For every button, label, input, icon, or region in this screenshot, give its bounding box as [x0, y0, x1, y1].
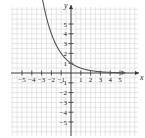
y-tick-label: −5: [60, 119, 68, 127]
tick-labels: −5−4−3−2−112345−5−4−3−2−112345: [18, 21, 122, 127]
x-tick-label: 4: [108, 76, 112, 84]
y-tick-label: 4: [64, 30, 68, 38]
grid-lines: [11, 7, 138, 136]
curve: [39, 0, 126, 75]
y-tick-label: −2: [60, 89, 68, 97]
x-tick-label: −5: [18, 76, 26, 84]
curve-arrow-right-icon: [121, 71, 126, 75]
x-tick-label: 3: [99, 76, 103, 84]
x-tick-label: −2: [48, 76, 56, 84]
y-tick-label: 1: [64, 60, 68, 68]
x-tick-label: −4: [28, 76, 36, 84]
x-axis-label: x: [139, 73, 144, 82]
graph: −5−4−3−2−112345−5−4−3−2−112345 x y: [0, 0, 145, 138]
y-tick-label: 3: [64, 40, 68, 48]
y-tick-label: −4: [60, 109, 68, 117]
y-tick-label: −1: [60, 79, 68, 87]
exponential-curve: [40, 0, 125, 73]
y-axis-label: y: [63, 1, 68, 10]
x-tick-label: 2: [89, 76, 93, 84]
x-tick-label: −3: [38, 76, 46, 84]
x-axis-arrow-icon: [135, 71, 139, 75]
y-tick-label: −3: [60, 99, 68, 107]
x-tick-label: 1: [79, 76, 83, 84]
y-tick-label: 5: [64, 21, 68, 29]
y-axis-arrow-icon: [69, 5, 73, 9]
x-tick-label: 5: [118, 76, 122, 84]
